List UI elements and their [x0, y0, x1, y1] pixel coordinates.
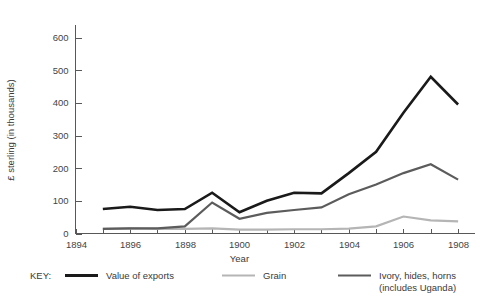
x-tick-label: 1906	[393, 239, 414, 250]
y-tick-label: 0	[63, 228, 68, 239]
x-axis-title: Year	[230, 253, 249, 264]
line-chart: £ sterling (in thousands) 01002003004005…	[0, 0, 494, 298]
x-tick-label: 1896	[120, 239, 141, 250]
x-tick-label: 1900	[229, 239, 250, 250]
svg-text:£ sterling (in thousands): £ sterling (in thousands)	[5, 79, 16, 180]
x-tick-label: 1894	[66, 239, 87, 250]
x-tick-label: 1908	[448, 239, 469, 250]
y-tick-label: 600	[53, 32, 69, 43]
y-tick-label: 500	[53, 65, 69, 76]
x-tick-label: 1904	[339, 239, 360, 250]
legend-label: Value of exports	[106, 270, 174, 281]
y-tick-label: 400	[53, 97, 69, 108]
x-tick-label: 1898	[175, 239, 196, 250]
chart-figure: £ sterling (in thousands) 01002003004005…	[0, 0, 494, 298]
legend-label-line2: (includes Uganda)	[379, 282, 456, 293]
legend-label: Ivory, hides, horns	[379, 270, 456, 281]
legend-label: Grain	[263, 270, 286, 281]
y-tick-label: 200	[53, 163, 69, 174]
x-tick-label: 1902	[284, 239, 305, 250]
y-axis-title: £ sterling (in thousands)	[5, 79, 16, 180]
y-tick-label: 300	[53, 130, 69, 141]
y-tick-label: 100	[53, 195, 69, 206]
legend-prefix: KEY:	[30, 270, 51, 281]
